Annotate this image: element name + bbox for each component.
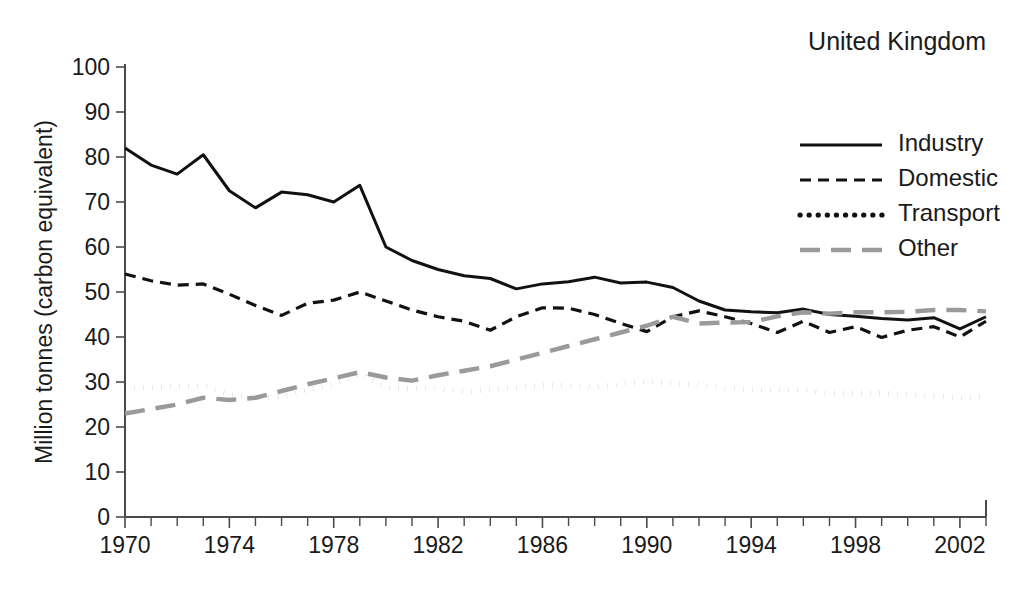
y-tick-label: 50 [84,279,110,305]
legend-label-industry: Industry [898,129,983,156]
y-axis-ticks: 0102030405060708090100 [72,54,125,530]
y-tick-label: 30 [84,369,110,395]
chart-figure: United Kingdom Million tonnes (carbon eq… [0,0,1025,589]
x-tick-label: 1974 [204,532,255,558]
chart-legend: IndustryDomesticTransportOther [800,129,1000,261]
y-tick-label: 10 [84,459,110,485]
y-axis-title: Million tonnes (carbon equivalent) [31,120,57,464]
series-lines [125,148,986,414]
line-chart: United Kingdom Million tonnes (carbon eq… [0,0,1025,589]
legend-label-other: Other [898,234,958,261]
x-tick-label: 1978 [308,532,359,558]
x-tick-label: 1982 [413,532,464,558]
y-tick-label: 70 [84,189,110,215]
y-tick-label: 90 [84,99,110,125]
y-tick-label: 100 [72,54,110,80]
y-tick-label: 0 [97,504,110,530]
series-line-transport [125,374,986,398]
y-tick-label: 40 [84,324,110,350]
y-tick-label: 60 [84,234,110,260]
x-tick-label: 1986 [517,532,568,558]
legend-label-domestic: Domestic [898,164,998,191]
x-tick-label: 1970 [99,532,150,558]
x-tick-label: 1990 [621,532,672,558]
y-tick-label: 20 [84,414,110,440]
x-tick-label: 2002 [934,532,985,558]
x-tick-label: 1994 [726,532,777,558]
x-tick-label: 1998 [830,532,881,558]
series-line-other [125,310,986,414]
x-axis-ticks: 197019741978198219861990199419982002 [99,517,986,558]
series-line-industry [125,148,986,329]
legend-label-transport: Transport [898,199,1000,226]
chart-title: United Kingdom [808,27,986,55]
y-tick-label: 80 [84,144,110,170]
